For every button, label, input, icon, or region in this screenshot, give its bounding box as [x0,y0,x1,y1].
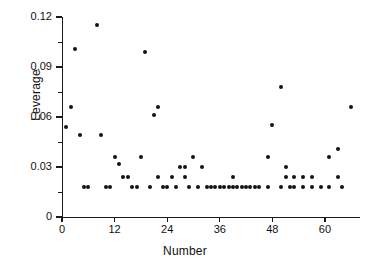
x-tick [219,217,220,222]
data-point [117,162,121,166]
data-point [301,175,305,179]
data-point [104,185,108,189]
data-point [170,175,174,179]
data-point [227,185,231,189]
x-axis-title: Number [0,244,370,258]
data-point [78,133,82,137]
data-point [266,155,270,159]
leverage-scatter-figure: 00.030.060.090.12 01224364860 Leverage N… [0,0,370,271]
data-point [319,185,323,189]
x-tick-label: 60 [305,224,345,235]
data-point [126,175,130,179]
data-point [113,155,117,159]
y-tick-label: 0.12 [31,11,52,22]
x-tick-label: 48 [252,224,292,235]
data-point [301,185,305,189]
x-tick [324,217,325,222]
y-tick-label: 0 [46,211,52,222]
x-tick [167,217,168,222]
data-point [135,185,139,189]
data-point [205,185,209,189]
data-point [174,185,178,189]
data-point [310,185,314,189]
data-point [218,185,222,189]
data-point [310,175,314,179]
data-point [253,185,257,189]
data-point [69,105,73,109]
x-tick-label: 36 [200,224,240,235]
x-tick-label: 24 [147,224,187,235]
data-point [284,165,288,169]
data-point [183,165,187,169]
y-tick-label: 0.03 [31,161,52,172]
x-tick-label: 12 [95,224,135,235]
x-tick [61,217,62,222]
data-point [161,185,165,189]
data-point [196,185,200,189]
x-tick [272,217,273,222]
data-point [336,147,340,151]
data-point [73,47,77,51]
x-tick-label: 0 [42,224,82,235]
data-point [148,185,152,189]
data-point [266,185,270,189]
data-point [284,175,288,179]
x-tick [114,217,115,222]
data-point [139,155,143,159]
data-point [231,175,235,179]
data-point [183,175,187,179]
y-axis-title: Leverage [29,35,43,155]
